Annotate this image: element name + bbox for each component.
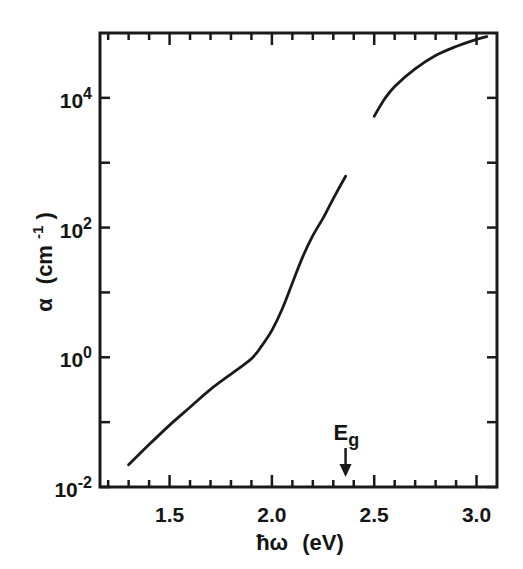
y-axis-unit-close: ) bbox=[32, 212, 57, 219]
band-gap-label-sub: g bbox=[348, 430, 359, 450]
y-axis-unit-open: (cm bbox=[32, 245, 57, 284]
y-tick-label: 10-2 bbox=[54, 474, 92, 501]
band-gap-annotation: Eg bbox=[334, 420, 360, 477]
x-axis-unit: (eV) bbox=[302, 530, 344, 555]
y-tick-label: 100 bbox=[60, 344, 92, 371]
y-axis-ticks: 10-2100102104 bbox=[54, 85, 497, 501]
data-series bbox=[129, 37, 487, 465]
x-tick-label: 1.5 bbox=[155, 503, 185, 526]
x-axis-ticks: 1.52.02.53.0 bbox=[108, 33, 491, 526]
plot-frame bbox=[100, 33, 497, 487]
y-axis-unit-exp: -1 bbox=[29, 226, 46, 239]
y-tick-label: 102 bbox=[60, 215, 92, 242]
y-tick-label: 104 bbox=[60, 85, 92, 112]
series-line-2 bbox=[374, 37, 487, 117]
plot-border bbox=[100, 33, 497, 487]
x-axis-label: ħω (eV) bbox=[256, 530, 344, 555]
x-tick-label: 2.5 bbox=[360, 503, 390, 526]
x-axis-quantity: ħω bbox=[256, 530, 288, 555]
x-tick-label: 3.0 bbox=[462, 503, 491, 526]
y-axis-label: α (cm -1 ) bbox=[23, 212, 57, 312]
absorption-chart: 1.52.02.53.0 10-2100102104 α (cm -1 ) ħω… bbox=[0, 0, 523, 569]
band-gap-label-main: E bbox=[334, 420, 349, 445]
band-gap-label: Eg bbox=[334, 420, 360, 450]
series-line-1 bbox=[129, 176, 346, 465]
down-arrow-icon bbox=[340, 448, 352, 477]
y-axis-symbol: α bbox=[32, 298, 57, 312]
x-tick-label: 2.0 bbox=[257, 503, 286, 526]
